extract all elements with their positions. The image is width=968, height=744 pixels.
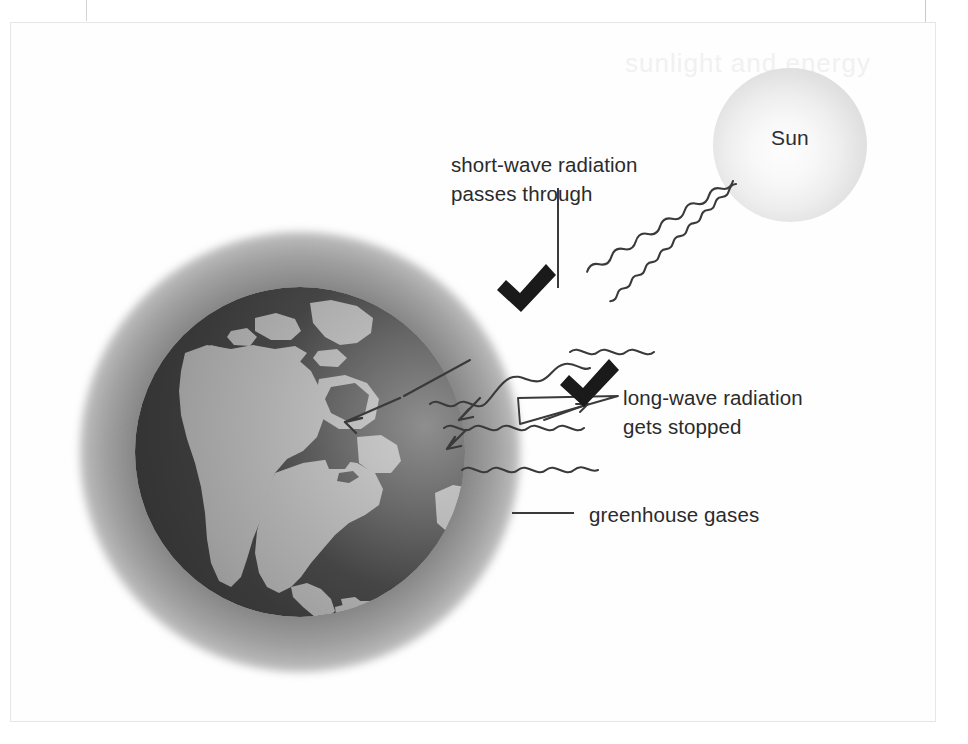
short-wave-leader-line <box>557 188 559 288</box>
sun-label: Sun <box>713 126 867 150</box>
long-wave-radiation-label: long-wave radiation gets stopped <box>623 383 803 441</box>
frame-edge-tick <box>925 0 926 22</box>
earth-group <box>80 232 520 672</box>
sun-group: Sun <box>713 68 867 222</box>
greenhouse-gases-leader-line <box>512 512 574 514</box>
greenhouse-gases-label: greenhouse gases <box>589 500 759 529</box>
short-wave-radiation-label: short-wave radiation passes through <box>451 150 638 208</box>
greenhouse-effect-figure: sunlight and energy <box>0 0 968 744</box>
earth-globe <box>135 287 465 617</box>
frame-top-smudge <box>86 0 87 21</box>
earth-map-svg <box>135 287 465 617</box>
